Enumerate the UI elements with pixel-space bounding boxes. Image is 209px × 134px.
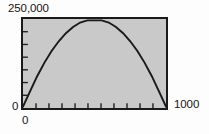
- x-axis-min-label: 0: [22, 115, 28, 126]
- data-curve: [23, 20, 166, 106]
- x-axis-max-label: 1000: [174, 99, 199, 110]
- y-axis-min-label: 0: [12, 101, 18, 112]
- y-axis-ticks: [23, 32, 28, 96]
- plot-area: [21, 17, 168, 110]
- x-axis-ticks: [36, 103, 153, 108]
- y-axis-max-label: 250,000: [8, 3, 49, 14]
- chart-figure: 250,000 0 0 1000: [0, 0, 209, 134]
- plot-curve-svg: [23, 19, 166, 108]
